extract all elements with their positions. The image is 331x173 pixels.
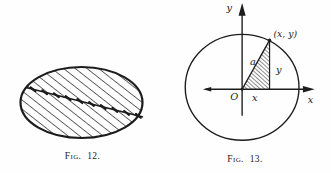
y-axis-label: y (225, 2, 232, 13)
x-axis-left-arrowhead (203, 87, 211, 92)
fig12-caption: Fig. 12. (0, 151, 165, 161)
scanned-figure-page: y x (x, y) a y x O Fig. 12. Fig. 13. (0, 0, 331, 173)
point-label: (x, y) (273, 28, 297, 39)
point-dot (268, 39, 271, 42)
ordinate-label: y (275, 64, 282, 75)
fig12-drawing (0, 0, 165, 150)
hypotenuse-label: a (250, 56, 256, 67)
abscissa-label: x (252, 92, 258, 103)
x-axis-label: x (308, 94, 314, 105)
origin-label: O (230, 91, 238, 102)
origin-dot (241, 88, 244, 91)
fig13-drawing: y x (x, y) a y x O (165, 0, 331, 152)
x-axis-right-arrowhead (303, 86, 315, 92)
y-axis-arrowhead (239, 3, 246, 16)
fig13-caption: Fig. 13. (195, 154, 295, 164)
